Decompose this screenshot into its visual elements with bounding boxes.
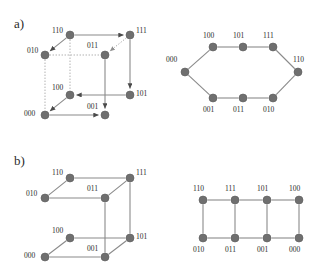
node-label-100: 100 xyxy=(52,83,64,92)
node-010[interactable] xyxy=(41,51,49,59)
node-111[interactable] xyxy=(126,174,134,182)
node-011[interactable] xyxy=(239,94,247,102)
node-label-110: 110 xyxy=(52,168,63,177)
node-label-110: 110 xyxy=(52,26,63,35)
node-label-000: 000 xyxy=(24,251,36,260)
node-000[interactable] xyxy=(41,253,49,261)
node-label-001: 001 xyxy=(87,244,99,253)
node-label-110: 110 xyxy=(193,184,204,193)
node-100[interactable] xyxy=(295,196,303,204)
node-label-000: 000 xyxy=(166,55,178,64)
node-101[interactable] xyxy=(126,234,134,242)
node-label-011: 011 xyxy=(233,105,244,114)
node-label-100: 100 xyxy=(203,31,215,40)
node-110[interactable] xyxy=(66,174,74,182)
node-label-010: 010 xyxy=(263,105,275,114)
node-001[interactable] xyxy=(263,234,271,242)
node-010[interactable] xyxy=(199,234,207,242)
node-001[interactable] xyxy=(101,111,109,119)
node-101[interactable] xyxy=(126,91,134,99)
panel-label-b: b) xyxy=(14,153,25,168)
node-label-101: 101 xyxy=(136,89,148,98)
node-000[interactable] xyxy=(295,234,303,242)
node-100[interactable] xyxy=(66,234,74,242)
node-011[interactable] xyxy=(101,194,109,202)
node-100[interactable] xyxy=(209,43,217,51)
node-101[interactable] xyxy=(239,43,247,51)
node-110[interactable] xyxy=(294,68,302,76)
node-label-101: 101 xyxy=(257,184,269,193)
node-label-110: 110 xyxy=(293,55,304,64)
node-010[interactable] xyxy=(269,94,277,102)
node-label-111: 111 xyxy=(136,168,147,177)
node-label-000: 000 xyxy=(289,245,301,254)
node-001[interactable] xyxy=(101,253,109,261)
node-100[interactable] xyxy=(66,91,74,99)
node-label-001: 001 xyxy=(257,245,269,254)
node-label-101: 101 xyxy=(136,232,148,241)
node-label-111: 111 xyxy=(263,31,274,40)
node-label-001: 001 xyxy=(203,105,215,114)
node-011[interactable] xyxy=(231,234,239,242)
node-label-010: 010 xyxy=(27,46,39,55)
node-111[interactable] xyxy=(126,31,134,39)
node-label-111: 111 xyxy=(225,184,236,193)
node-000[interactable] xyxy=(181,68,189,76)
node-101[interactable] xyxy=(263,196,271,204)
node-label-010: 010 xyxy=(26,189,38,198)
node-111[interactable] xyxy=(269,43,277,51)
node-label-010: 010 xyxy=(193,245,205,254)
node-label-011: 011 xyxy=(87,41,98,50)
node-label-100: 100 xyxy=(52,226,64,235)
node-label-111: 111 xyxy=(136,26,147,35)
node-011[interactable] xyxy=(101,51,109,59)
node-label-011: 011 xyxy=(87,184,98,193)
figure-background xyxy=(0,0,322,268)
node-010[interactable] xyxy=(41,194,49,202)
node-label-001: 001 xyxy=(87,102,99,111)
node-000[interactable] xyxy=(41,111,49,119)
node-label-011: 011 xyxy=(225,245,236,254)
node-110[interactable] xyxy=(66,31,74,39)
node-110[interactable] xyxy=(199,196,207,204)
panel-label-a: a) xyxy=(14,16,24,31)
node-001[interactable] xyxy=(209,94,217,102)
node-label-100: 100 xyxy=(289,184,301,193)
node-111[interactable] xyxy=(231,196,239,204)
node-label-000: 000 xyxy=(24,109,36,118)
node-label-101: 101 xyxy=(233,31,245,40)
hypercube-figure: 1101110100111001010000010001001011111100… xyxy=(0,0,322,268)
